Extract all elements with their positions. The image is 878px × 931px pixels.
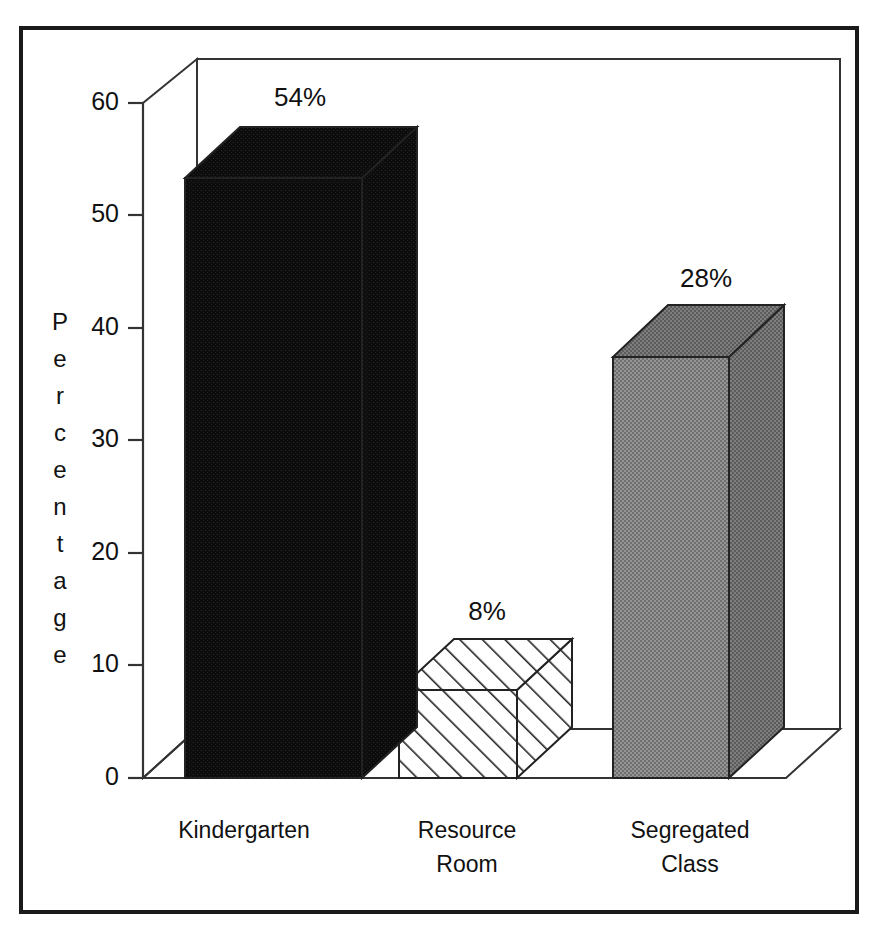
ylabel-letter-4: e: [53, 456, 66, 483]
cat-label-kindergarten-line0: Kindergarten: [178, 817, 310, 843]
bar-segregated-class[interactable]: [613, 305, 784, 778]
ylabel-letter-3: c: [54, 419, 66, 446]
ylabel-letter-2: r: [56, 382, 64, 409]
value-label-segregated-class: 28%: [680, 263, 732, 293]
bar-kindergarten-front: [185, 178, 362, 778]
ylabel-letter-7: a: [53, 567, 67, 594]
bar-kindergarten-side: [362, 127, 417, 778]
y-tick-label-0: 0: [105, 762, 119, 790]
ylabel-letter-9: e: [53, 641, 66, 668]
ylabel-letter-5: n: [53, 493, 66, 520]
cat-label-segregated-class-line1: Class: [661, 851, 719, 877]
ylabel-letter-6: t: [57, 530, 64, 557]
y-tick-label-30: 30: [91, 424, 119, 452]
y-tick-label-60: 60: [91, 87, 119, 115]
bar-kindergarten[interactable]: [185, 127, 417, 778]
cat-label-resource-room-line0: Resource: [418, 817, 516, 843]
cat-label-resource-room-line1: Room: [436, 851, 497, 877]
ylabel-letter-8: g: [53, 604, 66, 631]
ylabel-letter-1: e: [53, 345, 66, 372]
ylabel-letter-0: P: [52, 308, 68, 335]
bar-chart-figure: 60 50 40 30 20 10 0 P e r c e n t a g e: [0, 0, 878, 931]
y-tick-label-10: 10: [91, 649, 119, 677]
cat-label-segregated-class-line0: Segregated: [631, 817, 750, 843]
y-tick-label-50: 50: [91, 199, 119, 227]
y-tick-label-20: 20: [91, 537, 119, 565]
value-label-resource-room: 8%: [468, 596, 506, 626]
value-label-kindergarten: 54%: [274, 82, 326, 112]
y-tick-label-40: 40: [91, 312, 119, 340]
bar-segregated-class-side: [729, 305, 784, 778]
bar-segregated-class-front: [613, 357, 729, 778]
